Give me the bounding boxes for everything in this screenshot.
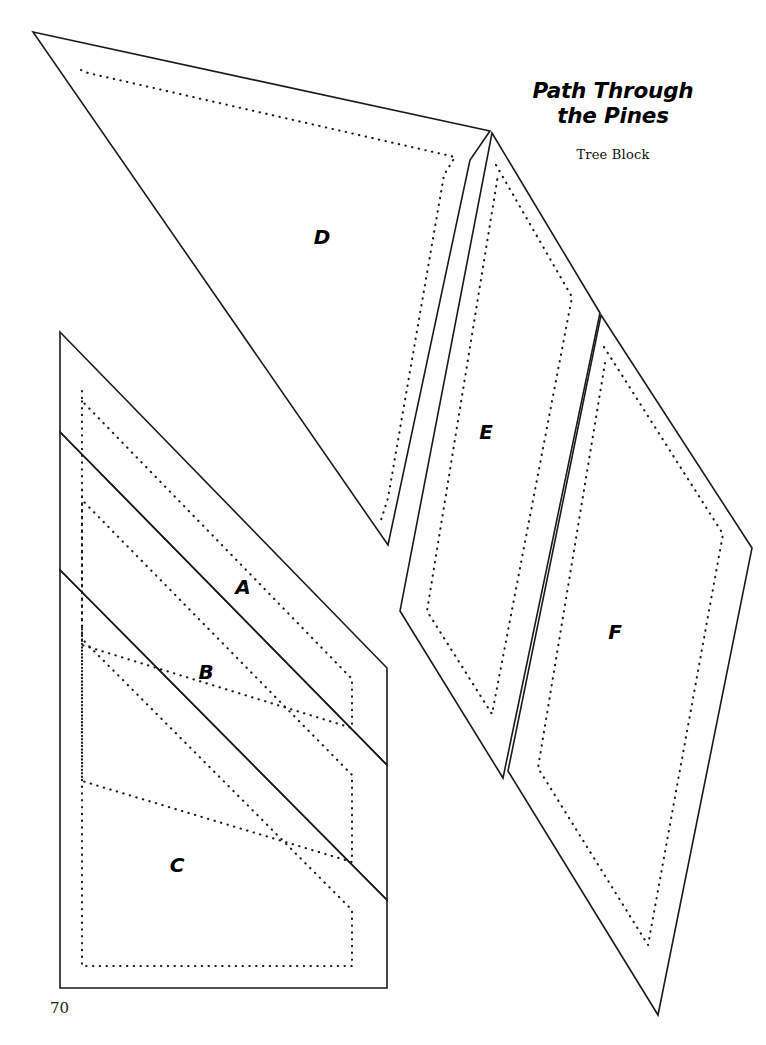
seam-line-a	[82, 391, 352, 728]
piece-label-c: C	[170, 853, 185, 877]
pattern-page: D E F C B A	[0, 0, 766, 1045]
cut-line-f	[508, 315, 752, 1015]
cut-line-e	[400, 133, 600, 778]
template-piece-a: A	[60, 332, 387, 765]
seam-line-f	[538, 347, 723, 945]
template-piece-f: F	[508, 315, 752, 1015]
seam-line-e	[427, 165, 572, 714]
piece-label-f: F	[608, 620, 622, 644]
quilt-template-diagram: D E F C B A	[0, 0, 766, 1045]
template-piece-c: C	[60, 570, 387, 988]
cut-line-c	[60, 570, 387, 988]
piece-label-d: D	[314, 225, 331, 249]
cut-line-d	[33, 32, 490, 545]
seam-line-c	[82, 629, 352, 966]
page-number: 70	[50, 999, 69, 1017]
template-piece-e: E	[400, 133, 600, 778]
seam-line-b	[82, 490, 352, 862]
seam-line-d	[81, 70, 455, 520]
piece-label-a: A	[233, 575, 250, 599]
piece-label-e: E	[479, 420, 493, 444]
template-piece-d: D	[33, 32, 490, 545]
cut-line-a	[60, 332, 387, 765]
piece-label-b: B	[198, 660, 213, 684]
